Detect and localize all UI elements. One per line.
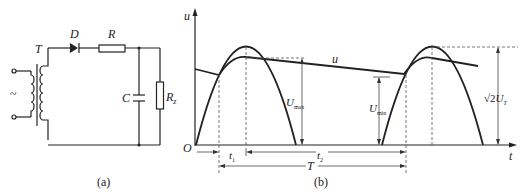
t2-dimension: t2 [252, 146, 406, 163]
capacitor: C [122, 48, 145, 145]
x-axis-arrow [509, 143, 517, 148]
peak-dimension: √2UT [484, 47, 508, 145]
sine-pulse-2 [382, 47, 483, 146]
transformer-label: T [35, 42, 43, 56]
resistor-r: R [99, 27, 125, 52]
input-terminals: ~ [10, 69, 31, 119]
transformer: T [31, 42, 48, 140]
origin-label: O [183, 141, 192, 155]
peak-label: √2UT [484, 92, 508, 106]
u-max-dimension: Umax [286, 58, 304, 145]
u-min-dimension: Umin [369, 77, 386, 145]
axes: u t O [183, 8, 517, 163]
waveform-plot: u t O u Umax Umin [183, 8, 518, 189]
t1-label: t1 [229, 149, 235, 163]
resistor-label: R [107, 27, 116, 41]
load-resistor: Rz [157, 48, 178, 145]
t1-dimension: t1 [197, 148, 252, 163]
output-curve-label: u [332, 52, 338, 66]
load-resistor-label: Rz [165, 90, 177, 106]
diode-label: D [69, 27, 79, 41]
period-dimension: T [219, 159, 406, 173]
y-axis-label: u [184, 9, 190, 23]
caption-a: (a) [97, 175, 110, 189]
capacitor-label: C [122, 91, 131, 105]
caption-b: (b) [314, 175, 328, 189]
u-min-label: Umin [369, 102, 386, 116]
ac-source-symbol: ~ [10, 87, 17, 101]
circuit-diagram: ~ T D R [10, 27, 177, 189]
u-max-label: Umax [286, 96, 304, 110]
x-axis-label: t [509, 149, 513, 163]
y-axis-arrow [193, 8, 198, 16]
diode: D [69, 27, 79, 53]
rectifier-figure: ~ T D R [0, 0, 524, 195]
